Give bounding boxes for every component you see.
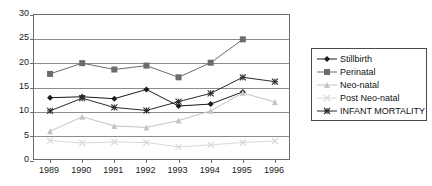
marker-asterisk: [272, 79, 278, 85]
marker-square: [324, 69, 330, 75]
marker-triangle: [47, 128, 53, 134]
legend-item-perinatal[interactable]: Perinatal: [314, 65, 424, 78]
y-axis-tick-label: 20: [5, 58, 29, 67]
legend-item-label: Post Neo-natal: [338, 93, 400, 103]
legend-marker-triangle-icon: [316, 79, 338, 91]
marker-square: [208, 60, 214, 66]
series-line: [50, 39, 243, 77]
legend-marker-cross-icon: [316, 92, 338, 104]
legend-item-label: Stillbirth: [338, 54, 372, 64]
marker-square: [240, 36, 246, 42]
series-perinatal: [47, 36, 246, 80]
x-axis-tick-label: 1996: [254, 165, 294, 175]
marker-asterisk: [47, 108, 53, 114]
marker-asterisk: [240, 74, 246, 80]
marker-diamond: [47, 95, 53, 101]
legend-item-label: Neo-natal: [338, 80, 379, 90]
marker-triangle: [79, 114, 85, 120]
y-axis-tick-label: 10: [5, 106, 29, 115]
marker-diamond: [111, 96, 117, 102]
marker-diamond: [143, 86, 149, 92]
y-axis-tick-label: 30: [5, 9, 29, 18]
y-axis-tick-label: 25: [5, 33, 29, 42]
series-post-neo-natal: [47, 138, 278, 150]
marker-asterisk: [208, 90, 214, 96]
marker-square: [143, 63, 149, 69]
marker-triangle: [272, 99, 278, 105]
marker-square: [47, 71, 53, 77]
x-axis-labels: 19891990199119921993199419951996: [0, 165, 432, 179]
y-axis-tick-label: 0: [5, 155, 29, 164]
legend-item-stillbirth[interactable]: Stillbirth: [314, 52, 424, 65]
legend-item-label: INFANT MORTALITY: [338, 106, 425, 116]
chart-legend: StillbirthPerinatalNeo-natalPost Neo-nat…: [311, 48, 427, 121]
marker-asterisk: [176, 99, 182, 105]
series-layer: [34, 15, 291, 161]
marker-square: [79, 60, 85, 66]
y-axis-tick-label: 5: [5, 131, 29, 140]
marker-asterisk: [143, 107, 149, 113]
marker-asterisk: [79, 95, 85, 101]
legend-item-neo-natal[interactable]: Neo-natal: [314, 78, 424, 91]
marker-diamond: [208, 101, 214, 107]
series-stillbirth: [47, 86, 246, 109]
chart-screenshot: 051015202530 198919901991199219931994199…: [0, 0, 432, 186]
marker-triangle: [208, 108, 214, 114]
marker-asterisk: [324, 108, 330, 114]
legend-marker-asterisk-icon: [316, 105, 338, 117]
marker-diamond: [324, 56, 330, 62]
marker-asterisk: [111, 104, 117, 110]
marker-square: [111, 67, 117, 73]
legend-item-post-neo-natal[interactable]: Post Neo-natal: [314, 91, 424, 104]
legend-item-label: Perinatal: [338, 67, 376, 77]
legend-marker-square-icon: [316, 66, 338, 78]
legend-item-infant-mortality[interactable]: INFANT MORTALITY: [314, 104, 424, 117]
y-axis-tick-label: 15: [5, 82, 29, 91]
marker-square: [176, 74, 182, 80]
plot-area: [33, 14, 290, 160]
legend-marker-diamond-icon: [316, 53, 338, 65]
